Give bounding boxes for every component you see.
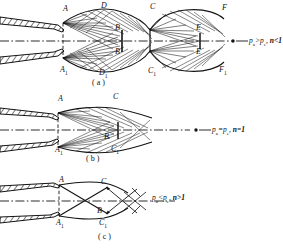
point-label-a-C: C bbox=[150, 3, 155, 11]
point-label-a-B-lower: B bbox=[115, 48, 120, 56]
nozzle-wall-lower-a bbox=[0, 49, 64, 64]
point-label-a-A1: A1 bbox=[60, 66, 68, 76]
reflected-shock-lower-c bbox=[106, 189, 137, 214]
point-label-b-A1: A1 bbox=[55, 146, 63, 156]
point-label-a-A: A bbox=[63, 5, 68, 13]
point-label-b-C1: C1 bbox=[111, 145, 119, 155]
caption-c: ( c ) bbox=[98, 233, 111, 241]
point-label-c-A: A bbox=[59, 176, 64, 184]
nozzle-wall-upper-a bbox=[0, 17, 64, 32]
point-label-a-E-lower: E bbox=[196, 48, 201, 56]
condition-label-b: pa=pe, n=1 bbox=[212, 126, 245, 136]
nozzle-wall-lower-b bbox=[0, 139, 59, 152]
pointer-dot-a bbox=[231, 39, 234, 42]
point-label-b-C: C bbox=[113, 93, 118, 101]
caption-b: ( b ) bbox=[86, 155, 99, 163]
point-label-a-D: D bbox=[101, 2, 107, 10]
point-label-c-C1: C1 bbox=[99, 219, 107, 229]
point-label-a-B-upper: B bbox=[115, 24, 120, 32]
panel-b bbox=[0, 107, 211, 153]
wave-fan-lower-b bbox=[58, 122, 118, 149]
point-label-b-A: A bbox=[58, 95, 63, 103]
wave-fan-upper-b bbox=[58, 111, 118, 138]
pointer-dot-b bbox=[194, 128, 197, 131]
point-label-c-C: C bbox=[101, 178, 106, 186]
point-label-c-A1: A1 bbox=[56, 219, 64, 229]
caption-a: ( a ) bbox=[92, 79, 105, 87]
nozzle-wall-lower-c bbox=[0, 212, 60, 223]
point-label-a-F1: F1 bbox=[219, 66, 227, 76]
nozzle-wall-upper-c bbox=[0, 183, 60, 192]
point-label-c-B: B bbox=[97, 207, 102, 215]
reflected-shock-upper-c bbox=[106, 187, 137, 213]
panel-c bbox=[0, 182, 175, 223]
condition-label-c: pa<pe, n>1 bbox=[152, 194, 185, 204]
point-label-a-E-upper: E bbox=[196, 24, 201, 32]
point-label-b-B: B bbox=[104, 133, 109, 141]
panel-a bbox=[0, 9, 248, 72]
point-label-a-C1: C1 bbox=[148, 67, 156, 77]
point-label-a-F: F bbox=[222, 4, 227, 12]
nozzle-wall-upper-b bbox=[0, 108, 59, 120]
condition-label-a: pa>pe, n<1 bbox=[249, 37, 282, 47]
